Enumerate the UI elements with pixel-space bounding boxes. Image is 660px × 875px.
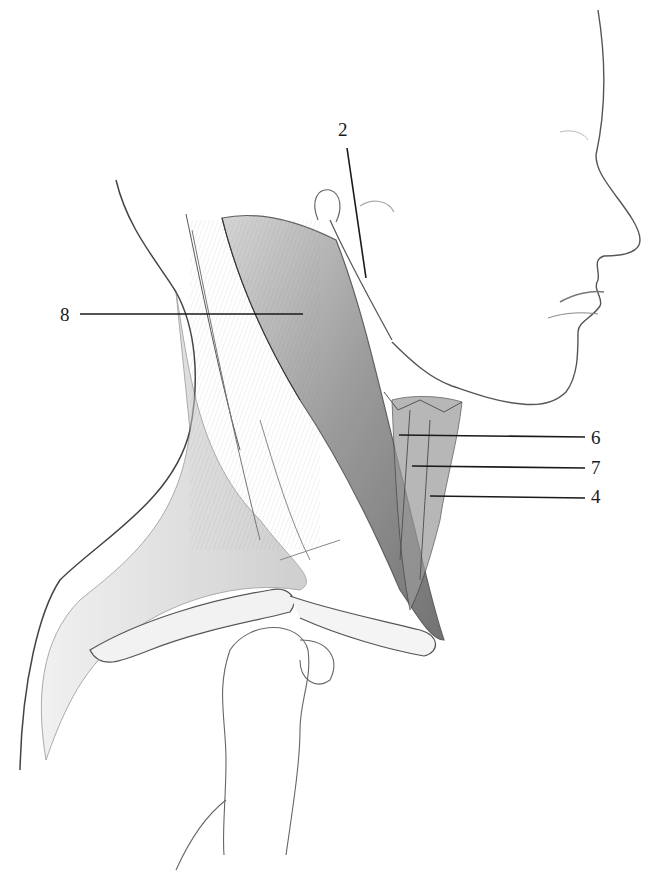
drawing-illustration: [0, 0, 660, 875]
label-2: 2: [338, 120, 348, 139]
label-6: 6: [591, 428, 601, 447]
leader-line-2: [347, 148, 366, 278]
humerus: [176, 628, 334, 871]
leader-line-4: [430, 496, 585, 498]
label-7: 7: [591, 458, 601, 477]
label-8: 8: [60, 305, 70, 324]
face-outline: [392, 10, 640, 405]
label-4: 4: [591, 487, 601, 506]
anatomy-figure: 2 8 6 7 4: [0, 0, 660, 875]
